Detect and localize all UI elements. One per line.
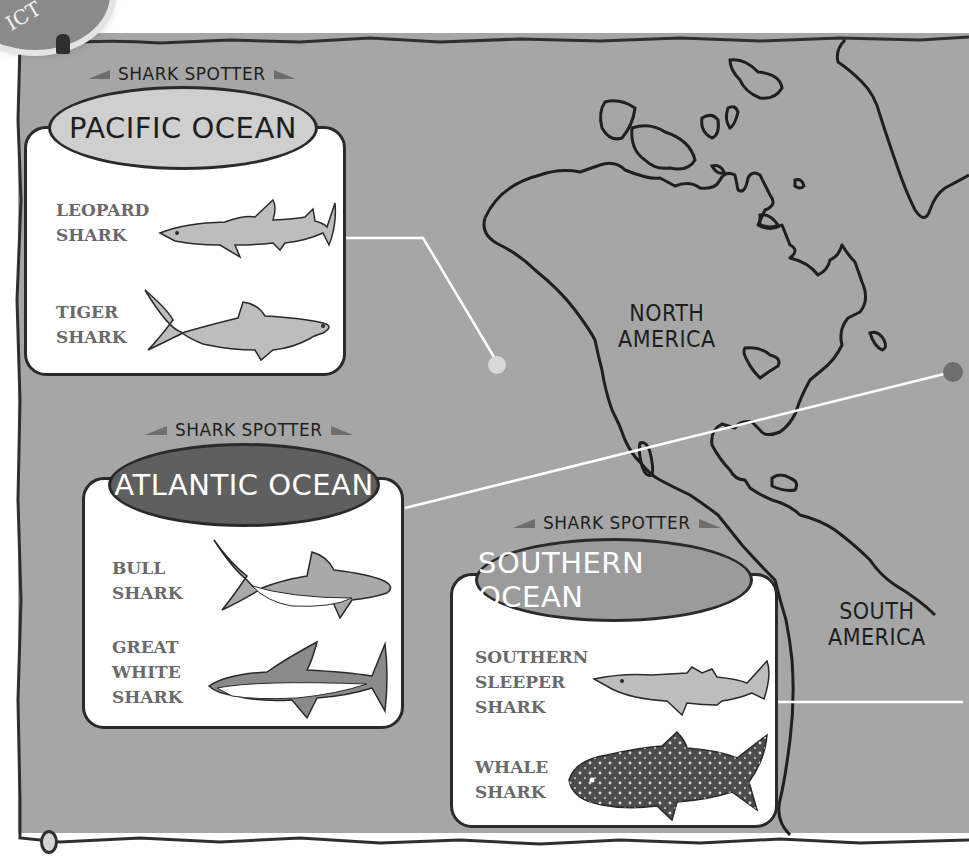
triangle-right-icon [331, 426, 353, 435]
arctic-island-4 [726, 107, 738, 128]
lake-shape [744, 348, 779, 378]
triangle-left-icon [513, 519, 535, 528]
bull-shark-icon [212, 538, 397, 628]
tiger-shark-icon [143, 288, 338, 366]
lake-island [795, 180, 804, 188]
shark-label-bull: BULLSHARK [112, 556, 182, 606]
whale-shark-icon [567, 730, 772, 825]
shark-label-southern-sleeper: SOUTHERNSLEEPERSHARK [475, 645, 588, 720]
pin-hole-icon [40, 830, 58, 854]
pacific-spotter-heading: SHARK SPOTTER [88, 64, 296, 84]
triangle-right-icon [274, 70, 296, 79]
triangle-left-icon [145, 426, 167, 435]
small-island [870, 332, 886, 350]
atlantic-marker-dot[interactable] [943, 362, 963, 382]
shark-label-great-white: GREATWHITESHARK [112, 635, 182, 710]
southern-sleeper-shark-icon [592, 655, 772, 720]
caribbean-island [772, 475, 797, 491]
arctic-island-6 [712, 166, 724, 174]
shark-label-whale: WHALESHARK [475, 755, 548, 805]
triangle-left-icon [88, 70, 110, 79]
greenland-outline [837, 40, 969, 218]
pushpin-icon [56, 34, 70, 54]
shark-label-leopard: LEOPARDSHARK [56, 198, 149, 248]
arctic-island-3 [702, 115, 719, 138]
atlantic-spotter-heading: SHARK SPOTTER [145, 420, 353, 440]
arctic-island-5 [730, 60, 782, 99]
arctic-island-1 [601, 101, 635, 139]
triangle-right-icon [699, 519, 721, 528]
atlantic-ocean-title: ATLANTIC OCEAN [108, 443, 380, 527]
continent-label-north-america: NORTH AMERICA [618, 300, 716, 352]
leopard-shark-icon [155, 195, 340, 260]
badge-text: ICT [1, 0, 45, 36]
arctic-island-2 [632, 126, 695, 169]
continent-label-south-america: SOUTH AMERICA [828, 598, 926, 650]
great-white-shark-icon [207, 636, 392, 721]
southern-ocean-title: SOUTHERN OCEAN [475, 538, 753, 622]
southern-spotter-heading: SHARK SPOTTER [513, 513, 721, 533]
pacific-marker-dot[interactable] [488, 356, 506, 374]
shark-label-tiger: TIGERSHARK [56, 300, 126, 350]
pacific-ocean-title: PACIFIC OCEAN [48, 86, 318, 170]
